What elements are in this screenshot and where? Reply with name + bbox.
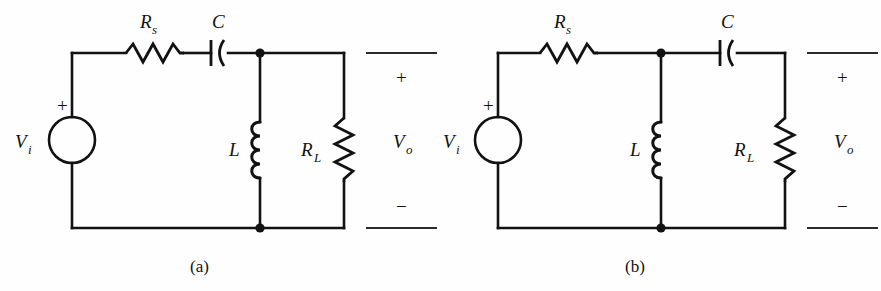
- capacitor-c-symbol-b: [720, 40, 733, 66]
- junction-dot-bottom-a: [255, 223, 264, 232]
- inductor-l-symbol-b: [653, 122, 661, 178]
- label-rs-subscript-b: s: [566, 22, 571, 37]
- label-vo-b: V: [834, 131, 848, 152]
- source-plus-sign-b: +: [483, 95, 494, 116]
- resistor-rl-symbol-b: [776, 118, 794, 182]
- circuit-panel-a: R s C L R L V i + V o + − (a): [0, 0, 440, 291]
- label-c-b: C: [721, 11, 734, 32]
- label-vi-a: V: [15, 131, 29, 152]
- label-vo-a: V: [393, 131, 407, 152]
- circuit-panel-b: R s C L R L V i + V o + − (b): [440, 0, 881, 291]
- output-plus-sign-b: +: [837, 67, 848, 88]
- source-plus-sign-a: +: [57, 95, 68, 116]
- label-c-a: C: [212, 11, 225, 32]
- resistor-rl-symbol-a: [335, 118, 353, 182]
- label-vi-subscript-b: i: [456, 142, 460, 157]
- label-rl-subscript-b: L: [746, 150, 754, 165]
- junction-dot-top-b: [656, 48, 665, 57]
- output-minus-sign-a: −: [396, 196, 407, 217]
- label-rs-subscript-a: s: [152, 22, 157, 37]
- output-plus-sign-a: +: [396, 67, 407, 88]
- label-rl-a: R: [300, 139, 313, 160]
- label-rs-a: R: [139, 11, 152, 32]
- label-rs-b: R: [553, 11, 566, 32]
- label-vo-subscript-b: o: [847, 142, 854, 157]
- voltage-source-symbol-b: [475, 117, 521, 163]
- output-minus-sign-b: −: [837, 196, 848, 217]
- panel-caption-a: (a): [190, 257, 209, 276]
- label-l-a: L: [228, 139, 240, 160]
- panel-caption-b: (b): [625, 257, 645, 276]
- junction-dot-bottom-b: [656, 223, 665, 232]
- voltage-source-symbol-a: [49, 117, 95, 163]
- label-vi-b: V: [443, 131, 457, 152]
- resistor-rs-symbol-b: [540, 44, 598, 62]
- inductor-l-symbol-a: [252, 122, 260, 178]
- circuit-figure: R s C L R L V i + V o + − (a): [0, 0, 881, 291]
- label-rl-b: R: [733, 139, 746, 160]
- label-vo-subscript-a: o: [406, 142, 413, 157]
- label-l-b: L: [629, 139, 641, 160]
- label-rl-subscript-a: L: [313, 150, 321, 165]
- label-vi-subscript-a: i: [28, 142, 32, 157]
- resistor-rs-symbol-a: [126, 44, 184, 62]
- junction-dot-top-a: [255, 48, 264, 57]
- capacitor-c-symbol-a: [211, 40, 224, 66]
